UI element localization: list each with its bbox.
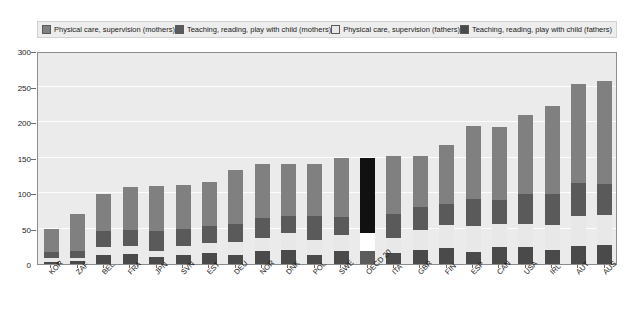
- bar-fra[interactable]: [123, 187, 138, 264]
- y-axis-tick-mark: [31, 194, 36, 195]
- bar-segment-mothers_physical: [255, 164, 270, 218]
- y-axis-tick-label: 0: [27, 261, 31, 270]
- bar-segment-fathers_physical: [255, 238, 270, 251]
- bar-aus[interactable]: [597, 81, 612, 264]
- bar-aut[interactable]: [571, 84, 586, 264]
- bar-segment-mothers_physical: [202, 182, 217, 225]
- x-axis: KORZAFBELFRAJPNSVNESTDEUNORDNKPOLSWEOECD…: [37, 266, 617, 316]
- y-axis-tick-mark: [31, 159, 36, 160]
- legend-item-fathers_physical[interactable]: Physical care, supervision (fathers): [331, 25, 460, 34]
- y-axis-tick-mark: [31, 88, 36, 89]
- bar-segment-fathers_physical: [545, 225, 560, 250]
- bar-segment-mothers_teaching: [545, 194, 560, 225]
- bar-segment-fathers_physical: [439, 225, 454, 248]
- bar-segment-mothers_teaching: [149, 231, 164, 250]
- bar-segment-mothers_physical: [44, 229, 59, 252]
- bar-segment-fathers_physical: [123, 246, 138, 254]
- y-axis-tick-label: 300: [18, 48, 31, 57]
- bar-swe[interactable]: [334, 158, 349, 264]
- bar-segment-mothers_teaching: [597, 184, 612, 215]
- bar-segment-mothers_physical: [176, 185, 191, 230]
- bar-segment-mothers_physical: [518, 115, 533, 194]
- bar-jpn[interactable]: [149, 186, 164, 264]
- bar-usa[interactable]: [518, 115, 533, 264]
- bar-segment-mothers_physical: [439, 145, 454, 203]
- legend-item-mothers_teaching[interactable]: Teaching, reading, play with child (moth…: [175, 25, 331, 34]
- bar-segment-mothers_physical: [70, 214, 85, 251]
- bar-segment-mothers_teaching: [202, 226, 217, 243]
- bar-irl[interactable]: [545, 106, 560, 264]
- legend-item-fathers_teaching[interactable]: Teaching, reading, play with child (fath…: [460, 25, 612, 34]
- bar-oecd-20[interactable]: [360, 158, 375, 264]
- bar-segment-mothers_teaching: [96, 231, 111, 247]
- y-axis-tick-mark: [31, 52, 36, 53]
- legend-item-label: Teaching, reading, play with child (fath…: [472, 25, 612, 34]
- bar-segment-mothers_physical: [545, 106, 560, 195]
- y-axis: 050100150200250300: [0, 52, 37, 265]
- bar-segment-fathers_physical: [281, 233, 296, 249]
- bar-segment-mothers_teaching: [70, 251, 85, 258]
- bar-segment-fathers_physical: [466, 226, 481, 252]
- bar-segment-mothers_physical: [96, 194, 111, 232]
- legend-item-label: Physical care, supervision (fathers): [343, 25, 460, 34]
- y-axis-tick-mark: [31, 123, 36, 124]
- bar-segment-mothers_physical: [386, 156, 401, 214]
- bar-pol[interactable]: [307, 164, 322, 264]
- bar-segment-mothers_physical: [466, 126, 481, 199]
- bar-bel[interactable]: [96, 194, 111, 264]
- bar-segment-mothers_teaching: [439, 204, 454, 225]
- bar-segment-fathers_physical: [307, 240, 322, 256]
- legend-item-label: Physical care, supervision (mothers): [54, 25, 175, 34]
- bar-segment-mothers_physical: [571, 84, 586, 183]
- bar-segment-fathers_physical: [96, 247, 111, 256]
- bar-fin[interactable]: [439, 145, 454, 264]
- bar-dnk[interactable]: [281, 164, 296, 264]
- bar-segment-mothers_physical: [597, 81, 612, 184]
- bar-svn[interactable]: [176, 185, 191, 264]
- chart-root: Physical care, supervision (mothers)Teac…: [0, 0, 626, 318]
- legend-swatch-icon: [331, 25, 340, 34]
- bar-segment-mothers_teaching: [176, 229, 191, 245]
- bar-segment-mothers_teaching: [228, 224, 243, 242]
- bar-segment-mothers_teaching: [413, 207, 428, 230]
- bar-segment-mothers_physical: [228, 170, 243, 223]
- y-axis-tick-label: 50: [22, 225, 31, 234]
- legend-swatch-icon: [175, 25, 184, 34]
- bar-segment-mothers_physical: [492, 127, 507, 200]
- y-axis-tick-mark: [31, 230, 36, 231]
- bar-segment-mothers_teaching: [518, 194, 533, 225]
- bar-segment-mothers_teaching: [307, 216, 322, 239]
- bar-esp[interactable]: [466, 126, 481, 264]
- legend-item-mothers_physical[interactable]: Physical care, supervision (mothers): [42, 25, 175, 34]
- bar-segment-fathers_physical: [492, 224, 507, 247]
- bar-can[interactable]: [492, 127, 507, 264]
- bar-segment-fathers_physical: [360, 233, 375, 251]
- y-axis-tick-label: 250: [18, 83, 31, 92]
- bar-gbr[interactable]: [413, 156, 428, 264]
- bar-nor[interactable]: [255, 164, 270, 264]
- bar-segment-fathers_physical: [413, 230, 428, 250]
- bar-segment-mothers_physical: [149, 186, 164, 231]
- y-axis-tick-label: 200: [18, 119, 31, 128]
- bar-est[interactable]: [202, 182, 217, 264]
- bar-zaf[interactable]: [70, 214, 85, 264]
- bar-segment-mothers_teaching: [571, 183, 586, 216]
- bar-segment-fathers_physical: [202, 243, 217, 254]
- legend-item-label: Teaching, reading, play with child (moth…: [187, 25, 331, 34]
- bar-segment-mothers_teaching: [255, 218, 270, 238]
- bar-segment-mothers_teaching: [386, 214, 401, 237]
- bar-segment-fathers_physical: [334, 235, 349, 251]
- bar-segment-mothers_teaching: [334, 217, 349, 235]
- bar-ita[interactable]: [386, 156, 401, 264]
- bar-deu[interactable]: [228, 170, 243, 264]
- y-axis-tick-label: 150: [18, 154, 31, 163]
- bar-segment-fathers_physical: [518, 224, 533, 247]
- chart-legend: Physical care, supervision (mothers)Teac…: [37, 21, 617, 38]
- legend-swatch-icon: [42, 25, 51, 34]
- plot-area: [37, 52, 617, 265]
- bar-group: [38, 53, 616, 264]
- y-axis-tick-label: 100: [18, 190, 31, 199]
- bar-segment-mothers_physical: [334, 158, 349, 218]
- bar-segment-fathers_physical: [176, 246, 191, 255]
- bar-segment-mothers_physical: [281, 164, 296, 216]
